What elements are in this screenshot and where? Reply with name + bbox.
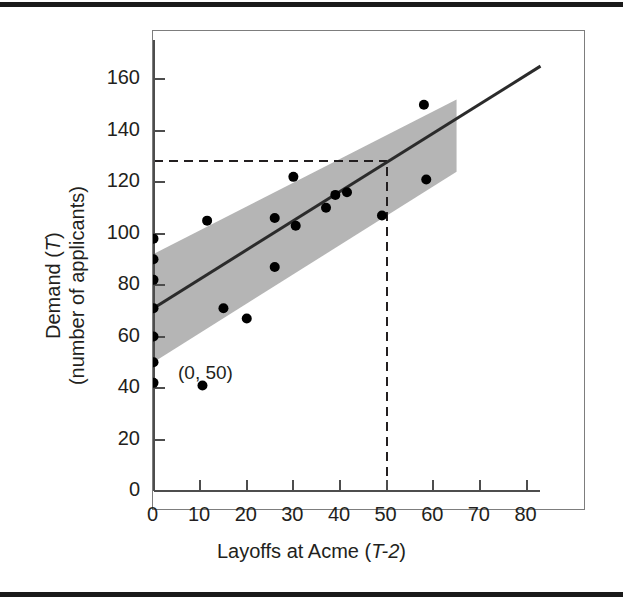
figure-container: 020406080100120140160 01020304050607080 … [0, 0, 623, 601]
data-point [153, 378, 159, 388]
x-axis-title-italic: T-2 [371, 540, 399, 562]
data-point [153, 234, 159, 244]
regression-line [154, 66, 541, 308]
data-point [291, 221, 301, 231]
data-point [202, 216, 212, 226]
y-axis-title-prefix: Demand ( [42, 251, 64, 339]
y-axis-title: Demand (T) (number of applicants) [42, 126, 89, 446]
bottom-rule-divider [0, 592, 623, 597]
confidence-band [154, 100, 457, 363]
data-point [242, 313, 252, 323]
x-axis-title-prefix: Layoffs at Acme ( [217, 540, 371, 562]
data-point [342, 187, 352, 197]
x-tick-label: 80 [496, 504, 556, 524]
data-point [421, 174, 431, 184]
y-tick-label: 160 [56, 67, 140, 87]
data-point [218, 303, 228, 313]
y-axis-title-italic: T [42, 239, 64, 251]
data-point [377, 210, 387, 220]
y-axis-title-suffix: ) [42, 232, 64, 239]
origin-point-annotation: (0, 50) [178, 362, 233, 384]
scatter-plot-svg [153, 31, 586, 511]
y-tick-label: 0 [56, 479, 140, 499]
y-axis-title-line1: Demand (T) [42, 126, 66, 446]
data-point [288, 172, 298, 182]
data-point [270, 262, 280, 272]
data-point [270, 213, 280, 223]
top-rule-divider [0, 2, 623, 7]
data-point [321, 203, 331, 213]
x-axis-title: Layoffs at Acme (T-2) [0, 540, 623, 563]
y-axis-title-line2: (number of applicants) [66, 126, 90, 446]
data-point [330, 190, 340, 200]
plot-area [152, 30, 585, 510]
x-axis-title-suffix: ) [399, 540, 406, 562]
data-point [419, 100, 429, 110]
